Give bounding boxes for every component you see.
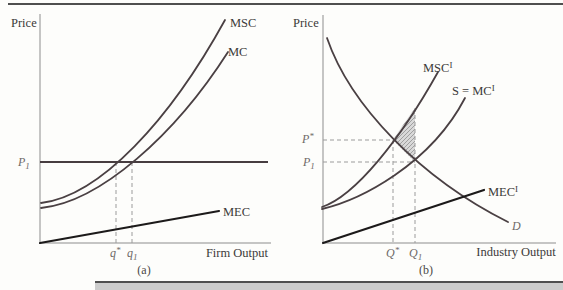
mec-industry-label: MECI	[488, 184, 518, 199]
Qstar-label: Q*	[386, 245, 400, 260]
panel-b-axes	[323, 15, 556, 243]
panel-b-caption: (b)	[419, 263, 433, 277]
p1-label-a: P1	[17, 155, 30, 171]
pstar-label: P*	[301, 131, 314, 146]
msc-industry-label: MSCI	[423, 60, 452, 75]
mc-curve	[41, 52, 228, 208]
p1-label-b: P1	[302, 155, 315, 171]
panel-b-y-axis-label: Price	[293, 16, 319, 30]
supply-label: S = MCI	[452, 83, 495, 98]
externality-diagram: Price MSC MC MEC P1 q* q1 Firm Output (a…	[0, 0, 563, 290]
panel-b: Price MSCI S = MCI MECI D P* P1 Q* Q1 In…	[293, 15, 556, 277]
msc-label: MSC	[230, 16, 256, 30]
msc-curve	[41, 20, 225, 203]
panel-a-caption: (a)	[137, 263, 150, 277]
mc-label: MC	[228, 45, 247, 59]
textbook-figure: Price MSC MC MEC P1 q* q1 Firm Output (a…	[0, 0, 563, 290]
mec-label: MEC	[223, 205, 250, 219]
panel-a-y-axis-label: Price	[11, 16, 37, 30]
mec-curve	[40, 211, 219, 243]
demand-label: D	[511, 219, 521, 233]
panel-a-x-axis-label: Firm Output	[206, 246, 269, 260]
mec-industry-curve	[323, 190, 484, 243]
panel-b-x-axis-label: Industry Output	[476, 245, 556, 259]
Q1-label: Q1	[409, 246, 422, 262]
panel-a: Price MSC MC MEC P1 q* q1 Firm Output (a…	[11, 14, 271, 277]
qstar-label: q*	[110, 245, 121, 260]
demand-curve	[327, 38, 508, 222]
q1-label: q1	[127, 246, 138, 262]
